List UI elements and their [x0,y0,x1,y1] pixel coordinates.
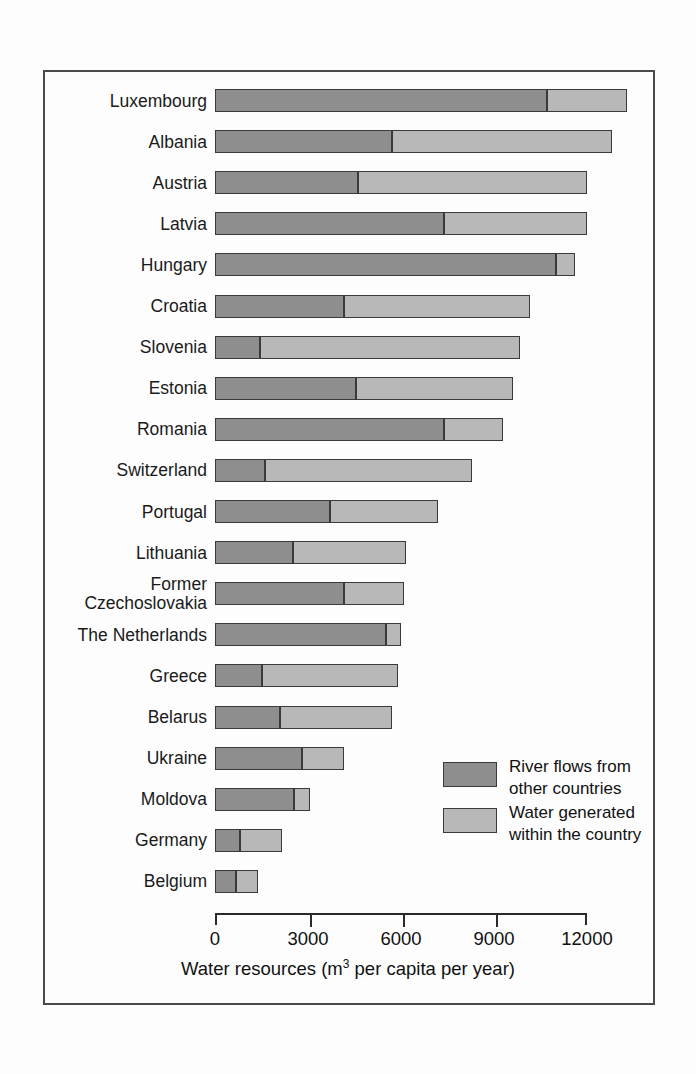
category-label: Austria [0,173,207,193]
category-label-line: Former [0,575,207,594]
bar-segment-water-generated [260,336,520,359]
bar-segment-water-generated [556,253,575,276]
bar-segment-river-flows [215,336,260,359]
category-label-line: Moldova [0,789,207,809]
category-label-line: Albania [0,132,207,152]
category-label-line: The Netherlands [0,625,207,645]
category-label-line: Greece [0,666,207,686]
legend-swatch-water-generated [443,808,497,833]
category-label-line: Latvia [0,214,207,234]
category-label: Belgium [0,871,207,891]
bar-segment-water-generated [444,212,587,235]
category-label: Latvia [0,214,207,234]
category-label: Croatia [0,296,207,316]
category-label: Estonia [0,378,207,398]
category-label: Moldova [0,789,207,809]
bar-segment-river-flows [215,212,444,235]
bar-segment-river-flows [215,295,344,318]
chart-figure: LuxembourgAlbaniaAustriaLatviaHungaryCro… [0,0,696,1074]
legend-label-line: other countries [509,778,631,800]
bar-segment-water-generated [386,623,402,646]
bar-segment-water-generated [265,459,473,482]
legend-label: River flows fromother countries [509,756,631,799]
legend-swatch-river-flows [443,762,497,787]
bar-segment-river-flows [215,418,444,441]
category-label: The Netherlands [0,625,207,645]
bar-segment-river-flows [215,89,547,112]
x-axis-title-prefix: Water resources (m [181,958,343,979]
category-label: Lithuania [0,543,207,563]
bar-segment-water-generated [240,829,282,852]
category-label: Romania [0,419,207,439]
bar-segment-water-generated [358,171,587,194]
bar-segment-river-flows [215,459,265,482]
bar-segment-river-flows [215,870,236,893]
x-axis-tick [403,915,405,927]
bar-segment-water-generated [330,500,439,523]
legend-label-line: within the country [509,824,641,846]
bar-segment-river-flows [215,171,358,194]
category-label: Albania [0,132,207,152]
x-axis-tick [496,915,498,927]
legend-label-line: Water generated [509,802,641,824]
legend-label: Water generatedwithin the country [509,802,641,845]
category-label-line: Belgium [0,871,207,891]
x-axis-tick-label: 9000 [473,928,514,950]
x-axis [215,913,587,925]
category-label: Hungary [0,255,207,275]
category-label: Switzerland [0,460,207,480]
bar-segment-river-flows [215,664,262,687]
bar-segment-river-flows [215,130,392,153]
x-axis-tick-label: 6000 [380,928,421,950]
x-axis-tick [310,915,312,927]
x-axis-tick-label: 12000 [561,928,612,950]
bar-segment-water-generated [280,706,392,729]
category-label-line: Czechoslovakia [0,594,207,613]
x-axis-title: Water resources (m3 per capita per year) [0,957,696,980]
bar-segment-river-flows [215,706,280,729]
bar-segment-river-flows [215,747,302,770]
bar-segment-river-flows [215,500,330,523]
category-label: Slovenia [0,337,207,357]
x-axis-title-suffix: per capita per year) [349,958,515,979]
bar-segment-river-flows [215,623,386,646]
category-label-line: Slovenia [0,337,207,357]
bar-segment-river-flows [215,829,240,852]
x-axis-tick-label: 0 [210,928,220,950]
category-label: Luxembourg [0,91,207,111]
bar-segment-water-generated [547,89,628,112]
bar-segment-water-generated [236,870,258,893]
bar-segment-river-flows [215,377,356,400]
bar-segment-water-generated [392,130,612,153]
bar-segment-water-generated [294,788,310,811]
category-label: FormerCzechoslovakia [0,575,207,613]
category-label-line: Estonia [0,378,207,398]
category-label-line: Hungary [0,255,207,275]
category-label-line: Croatia [0,296,207,316]
bar-segment-water-generated [302,747,344,770]
category-label-line: Luxembourg [0,91,207,111]
bar-segment-water-generated [344,295,530,318]
category-label-line: Germany [0,830,207,850]
bar-segment-river-flows [215,541,293,564]
category-label: Ukraine [0,748,207,768]
category-label-line: Ukraine [0,748,207,768]
category-label: Germany [0,830,207,850]
category-label: Greece [0,666,207,686]
bar-segment-water-generated [356,377,513,400]
category-label-line: Lithuania [0,543,207,563]
category-label: Belarus [0,707,207,727]
bar-segment-water-generated [344,582,404,605]
bar-segment-water-generated [444,418,503,441]
bar-segment-river-flows [215,582,344,605]
category-label-line: Romania [0,419,207,439]
category-label-line: Belarus [0,707,207,727]
bar-segment-river-flows [215,788,294,811]
legend-label-line: River flows from [509,756,631,778]
x-axis-tick-label: 3000 [287,928,328,950]
category-label-line: Portugal [0,502,207,522]
bar-segment-water-generated [262,664,398,687]
category-label-line: Austria [0,173,207,193]
category-label-line: Switzerland [0,460,207,480]
category-label: Portugal [0,502,207,522]
